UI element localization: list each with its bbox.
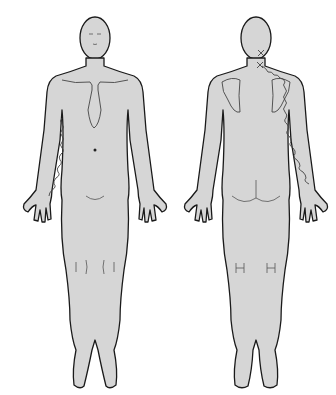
head-front [80,17,110,59]
anterior-figure [24,17,167,388]
body-chart [0,0,336,395]
posterior-figure [185,17,328,388]
navel [94,149,97,152]
body-back [185,58,328,388]
body-front [24,58,167,388]
head-back [241,17,271,59]
